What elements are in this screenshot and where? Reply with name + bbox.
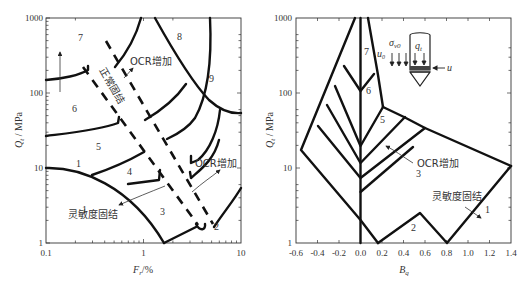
svg-text:0.2: 0.2 bbox=[376, 248, 387, 258]
left-ytick-1000: 1000 bbox=[25, 13, 44, 23]
right-xtick-labels: -0.6 -0.4 -0.2 0.0 0.2 0.4 0.6 0.8 1.0 1… bbox=[289, 248, 517, 258]
chevron-5 bbox=[327, 105, 405, 163]
zone4-5-boundary bbox=[92, 152, 144, 175]
svg-text:0.0: 0.0 bbox=[355, 248, 367, 258]
right-ytick-1: 1 bbox=[288, 238, 293, 248]
arrow-sensitive-icon bbox=[119, 186, 165, 205]
svg-text:1.0: 1.0 bbox=[462, 248, 474, 258]
left-zone-2: 2 bbox=[214, 221, 219, 232]
svg-text:0.8: 0.8 bbox=[441, 248, 453, 258]
right-plot-frame bbox=[296, 18, 511, 243]
svg-text:0.6: 0.6 bbox=[419, 248, 431, 258]
svg-text:-0.4: -0.4 bbox=[310, 248, 325, 258]
left-ytick-100: 100 bbox=[30, 88, 44, 98]
svg-text:0.4: 0.4 bbox=[398, 248, 410, 258]
left-zone-9: 9 bbox=[209, 73, 214, 84]
left-sensitive-label: 灵敏度固结 bbox=[68, 208, 118, 220]
chevron-6 bbox=[335, 86, 383, 146]
inset-u0-label: u0 bbox=[377, 48, 385, 60]
cone-tip bbox=[410, 72, 430, 86]
cone-filter bbox=[410, 66, 430, 70]
right-ytick-10: 10 bbox=[283, 163, 293, 173]
left-ocr-down-label: OCR增加 bbox=[195, 157, 237, 169]
right-zone-7: 7 bbox=[364, 46, 369, 57]
left-zone-5: 5 bbox=[96, 141, 101, 152]
right-zone-5: 5 bbox=[380, 114, 385, 125]
right-zone-6: 6 bbox=[366, 85, 371, 96]
nc-band-right-dashed bbox=[106, 41, 213, 224]
right-x-axis-label: Bq bbox=[399, 264, 409, 277]
zone6-8-inner bbox=[145, 84, 186, 120]
left-zone-4: 4 bbox=[127, 166, 132, 177]
figure: 1000 100 10 1 0.1 1 10 Fr/% Qt / MPa bbox=[0, 0, 530, 288]
right-ytick-100: 100 bbox=[279, 88, 293, 98]
left-x-axis-label: Fr/% bbox=[132, 264, 153, 277]
left-zone-7: 7 bbox=[78, 32, 83, 43]
left-ytick-10: 10 bbox=[34, 163, 44, 173]
right-ytick-1000: 1000 bbox=[274, 13, 293, 23]
left-ocr-up-label: OCR增加 bbox=[130, 55, 172, 67]
right-arrow-sensitive-icon bbox=[465, 207, 481, 218]
left-zone-8: 8 bbox=[177, 31, 182, 42]
right-ocr-label: OCR增加 bbox=[417, 157, 459, 169]
zone6-7-boundary bbox=[46, 66, 88, 80]
left-ytick-1: 1 bbox=[39, 238, 44, 248]
right-zone-boundaries bbox=[301, 18, 511, 243]
left-xtick-10: 10 bbox=[237, 248, 247, 258]
lower-right-envelope bbox=[378, 166, 511, 243]
zone5-6-boundary bbox=[46, 117, 119, 136]
inset-qt-label: qt bbox=[415, 40, 423, 53]
svg-text:1.2: 1.2 bbox=[484, 248, 495, 258]
svg-text:-0.2: -0.2 bbox=[332, 248, 346, 258]
right-zone-1: 1 bbox=[485, 204, 490, 215]
zone9-outer-arc bbox=[167, 18, 210, 139]
svg-text:-0.6: -0.6 bbox=[289, 248, 304, 258]
inset-u-label: u bbox=[447, 62, 452, 73]
right-y-axis-label: Qt / MPa bbox=[264, 112, 277, 148]
left-zone-3: 3 bbox=[160, 206, 165, 217]
svg-text:1.4: 1.4 bbox=[505, 248, 517, 258]
left-xtick-0.1: 0.1 bbox=[40, 248, 51, 258]
left-chart: 1000 100 10 1 0.1 1 10 Fr/% Qt / MPa bbox=[13, 13, 246, 277]
right-zone-2: 2 bbox=[411, 222, 416, 233]
zone1-boundary bbox=[46, 168, 164, 243]
inset-cone-diagram: σv0 u0 qt u bbox=[377, 33, 452, 86]
right-sensitive-label: 灵敏度固结 bbox=[432, 190, 482, 202]
right-zone-3: 3 bbox=[416, 168, 421, 179]
right-x-ticks bbox=[318, 18, 490, 243]
left-xtick-1: 1 bbox=[141, 248, 146, 258]
left-zone-1-upper: 1 bbox=[76, 158, 81, 169]
left-y-axis-label: Qt / MPa bbox=[13, 112, 26, 148]
zone3-4-boundary bbox=[128, 170, 160, 184]
right-chart: 1000 100 10 1 -0.6 -0.4 -0.2 0.0 0.2 0.4… bbox=[264, 13, 517, 277]
inset-sigma-label: σv0 bbox=[389, 37, 401, 50]
zone2-left-boundary bbox=[164, 227, 196, 243]
left-zone-6: 6 bbox=[72, 103, 77, 114]
